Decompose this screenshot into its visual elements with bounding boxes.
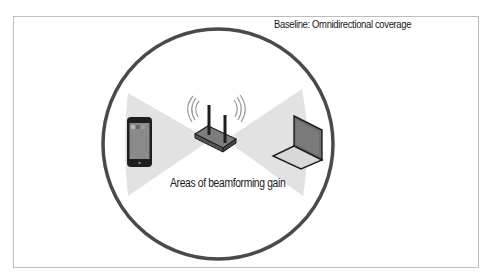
- diagram-title: Baseline: Omnidirectional coverage: [274, 18, 411, 30]
- beamforming-diagram: [0, 0, 492, 280]
- beamforming-gain-caption: Areas of beamforming gain: [170, 176, 285, 190]
- smartphone-icon: [127, 117, 152, 167]
